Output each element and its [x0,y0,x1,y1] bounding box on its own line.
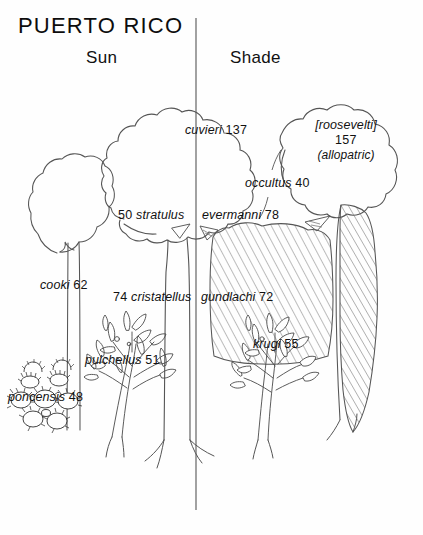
label-stratulus: 50 stratulus [118,208,184,222]
label-gundlachi-name: gundlachi [201,290,255,304]
label-stratulus-name: stratulus [136,208,184,222]
label-poncensis: poncensis 48 [8,390,83,404]
label-evermanni: evermanni 78 [202,208,279,222]
label-cooki-value: 62 [73,278,88,292]
label-cristatellus: 74 cristatellus [113,290,191,304]
label-cuvieri-value: 137 [225,123,247,137]
label-stratulus-prefix: 50 [118,208,133,222]
label-roosevelti-value: 157 [290,133,402,147]
label-poncensis-value: 48 [69,390,84,404]
label-cristatellus-name: cristatellus [131,290,191,304]
label-cooki-name: cooki [40,278,70,292]
label-poncensis-name: poncensis [8,390,65,404]
label-occultus-name: occultus [245,176,292,190]
figure-linework [0,0,423,535]
shrub-pulchellus [84,311,176,437]
shade-trunk-hatch [340,205,377,432]
anole-ecomorph-figure: PUERTO RICO Sun Shade cuvieri 137 [roose… [0,0,423,535]
label-evermanni-name: evermanni [202,208,261,222]
label-roosevelti: [roosevelti] 157 (allopatric) [290,118,402,162]
column-header-sun: Sun [86,48,117,68]
label-cuvieri-name: cuvieri [185,123,222,137]
label-gundlachi-value: 72 [259,290,274,304]
label-cuvieri: cuvieri 137 [185,123,247,137]
label-cristatellus-prefix: 74 [113,290,128,304]
label-pulchellus: pulchellus 51 [85,353,160,367]
column-header-shade: Shade [230,48,281,68]
label-evermanni-value: 78 [265,208,280,222]
label-roosevelti-note: (allopatric) [290,148,402,162]
label-occultus: occultus 40 [245,176,310,190]
label-krugi-name: krugi [253,337,281,351]
label-roosevelti-name: [roosevelti] [290,118,402,132]
label-krugi: krugi 55 [253,337,299,351]
page-title: PUERTO RICO [18,13,183,39]
root-flares [106,414,357,468]
label-cooki: cooki 62 [40,278,88,292]
label-krugi-value: 55 [284,337,299,351]
label-gundlachi: gundlachi 72 [201,290,274,304]
label-occultus-value: 40 [295,176,310,190]
label-pulchellus-name: pulchellus [85,353,142,367]
label-pulchellus-value: 51 [145,353,160,367]
